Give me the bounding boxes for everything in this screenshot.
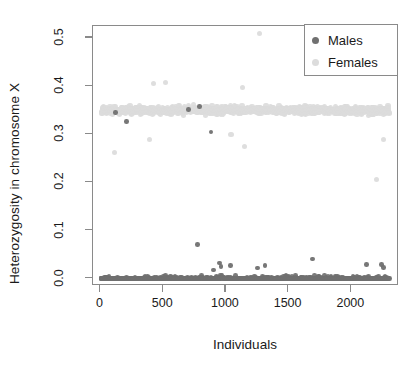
data-point [124,119,129,124]
x-tick-label: 2000 [320,296,380,310]
data-point [364,262,369,267]
x-tick-mark [350,285,351,292]
data-point [211,268,216,273]
x-axis-title: Individuals [92,334,398,354]
data-point [242,144,247,149]
data-point [374,177,379,182]
y-tick-label: 0.5 [52,14,66,60]
y-axis-title: Heterozygosity in chromosome X [0,0,28,367]
data-point [112,150,117,155]
legend-marker-males [312,37,319,44]
x-tick-mark [99,285,100,292]
data-point [263,263,268,268]
data-point [240,85,245,90]
data-point [219,264,224,269]
x-tick-mark [224,285,225,292]
x-tick-label: 500 [132,296,192,310]
y-tick-label: 0.4 [52,62,66,108]
y-tick-mark [85,181,92,182]
data-point [228,132,233,137]
x-tick-label: 1000 [195,296,255,310]
y-tick-label: 0.1 [52,207,66,253]
legend-label-males: Males [328,33,363,48]
data-point [151,81,156,86]
y-tick-mark [85,133,92,134]
data-point [113,110,118,115]
data-point [381,265,386,270]
legend: Males Females [304,24,398,76]
scatter-plot-figure: Heterozygosity in chromosome X 0.00.10.2… [0,0,418,367]
data-point [257,31,262,36]
data-point [186,107,191,112]
legend-marker-females [312,59,319,66]
data-point [387,276,392,281]
legend-entry-males: Males [305,29,397,51]
x-tick-mark [287,285,288,292]
y-tick-mark [85,277,92,278]
legend-label-females: Females [328,55,378,70]
data-point [387,110,392,115]
x-tick-mark [162,285,163,292]
data-point [195,242,200,247]
y-tick-mark [85,36,92,37]
y-tick-mark [85,85,92,86]
data-point [197,104,202,109]
data-point [381,137,386,142]
y-tick-label: 0.2 [52,158,66,204]
x-tick-label: 0 [70,296,130,310]
data-point [310,257,315,262]
data-point [228,263,233,268]
y-tick-label: 0.0 [52,255,66,301]
data-point [163,80,168,85]
data-point [147,137,152,142]
y-tick-mark [85,229,92,230]
y-tick-label: 0.3 [52,110,66,156]
data-point [209,130,214,135]
data-point [255,266,260,271]
legend-entry-females: Females [305,51,397,73]
x-tick-label: 1500 [258,296,318,310]
